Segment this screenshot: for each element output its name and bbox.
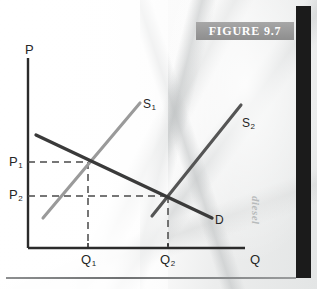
tick-label-p2: P2 [9, 188, 22, 201]
quantity-axis-label: Q [250, 253, 260, 266]
supply-demand-chart [0, 0, 317, 289]
curve-label-d: D [215, 214, 224, 226]
price-axis-label: P [25, 43, 34, 56]
curve-label-s2: S2 [242, 117, 254, 129]
tick-label-q1: Q1 [81, 253, 96, 266]
tick-label-p1: P1 [9, 155, 22, 168]
supply-curve-s2 [152, 105, 241, 216]
tick-label-q2: Q2 [160, 253, 175, 266]
page-bottom-rule [6, 277, 296, 279]
figure-page: diesel FIGURE 9.7 P Q P1 P2 Q1 Q2 S1 S2 … [0, 0, 317, 289]
curve-label-s1: S1 [143, 98, 155, 110]
